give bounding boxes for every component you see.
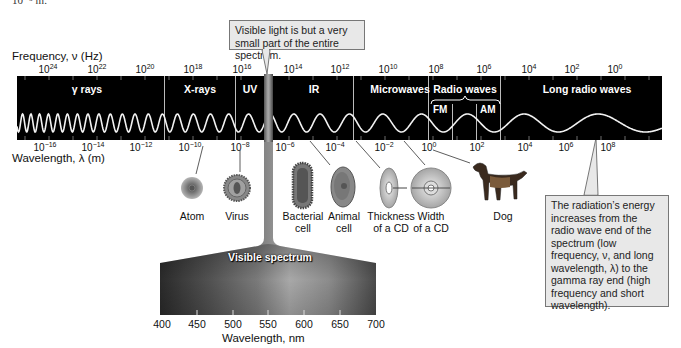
bacterial-cell-label: Bacterialcell — [283, 210, 324, 234]
cd-width-label: Widthof a CD — [413, 210, 449, 234]
cd-width-icon — [411, 168, 451, 208]
nm-tick: 500 — [224, 318, 242, 330]
nm-tick: 550 — [259, 318, 277, 330]
atom-icon — [181, 177, 203, 199]
dog-icon — [473, 163, 527, 200]
cd-thickness-label: Thicknessof a CD — [367, 210, 414, 234]
nm-tick: 650 — [331, 318, 349, 330]
virus-label: Virus — [225, 210, 249, 222]
atom-label: Atom — [180, 210, 205, 222]
animal-cell-icon — [331, 167, 355, 207]
nm-tick: 450 — [188, 318, 206, 330]
bacterial-cell-icon — [293, 163, 312, 208]
animal-cell-label: Animalcell — [328, 210, 360, 234]
energy-callout: The radiation’s energy increases from th… — [545, 195, 669, 307]
nm-tick: 400 — [153, 318, 171, 330]
nm-axis-title: Wavelength, nm — [222, 332, 305, 344]
virus-icon — [224, 175, 250, 201]
nm-tick: 600 — [295, 318, 313, 330]
cd-thickness-icon — [380, 168, 407, 208]
nm-tick: 700 — [367, 318, 385, 330]
energy-callout-text: The radiation’s energy increases from th… — [551, 199, 655, 311]
dog-label: Dog — [493, 210, 512, 222]
